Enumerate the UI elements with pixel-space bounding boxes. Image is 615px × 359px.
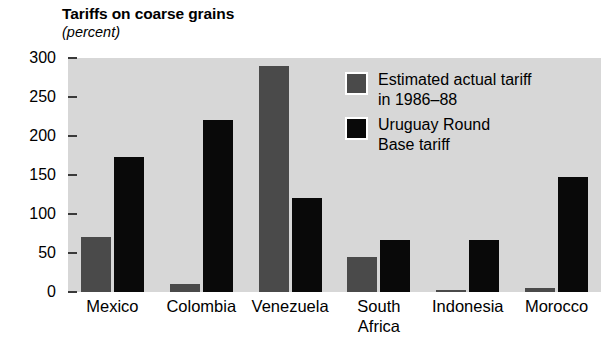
- bar-base: [114, 157, 144, 292]
- legend-label: Estimated actual tariff in 1986–88: [378, 70, 532, 109]
- x-tick-label-line: Venezuela: [246, 296, 335, 316]
- legend-swatch-icon: [345, 72, 368, 95]
- x-tick-label: SouthAfrica: [335, 296, 424, 336]
- y-tick-label: 150: [0, 167, 56, 183]
- bar-actual: [525, 288, 555, 292]
- y-tick-label: 250: [0, 89, 56, 105]
- y-tick-label: 50: [0, 245, 56, 261]
- legend-item: Uruguay Round Base tariff: [345, 115, 595, 154]
- x-tick-label: Morocco: [512, 296, 601, 316]
- chart-header: Tariffs on coarse grains (percent): [62, 4, 602, 41]
- bar-base: [469, 240, 499, 292]
- x-tick-label-line: Colombia: [157, 296, 246, 316]
- y-axis: 300250200150100500: [0, 58, 56, 292]
- bar-group: [246, 58, 335, 292]
- x-tick-label: Venezuela: [246, 296, 335, 316]
- chart-subtitle: (percent): [62, 23, 602, 41]
- bar-actual: [347, 257, 377, 292]
- page-title: Tariffs on coarse grains: [62, 4, 602, 23]
- x-tick-label-line: South: [335, 296, 424, 316]
- legend-swatch-icon: [345, 117, 368, 140]
- bar-actual: [436, 290, 466, 292]
- bar-base: [203, 120, 233, 292]
- x-tick-label: Colombia: [157, 296, 246, 316]
- x-axis: MexicoColombiaVenezuelaSouthAfricaIndone…: [68, 296, 601, 356]
- x-tick-label-line: Mexico: [68, 296, 157, 316]
- x-tick-label-line: Morocco: [512, 296, 601, 316]
- bar-actual: [259, 66, 289, 292]
- legend-item: Estimated actual tariff in 1986–88: [345, 70, 595, 109]
- y-tick-label: 100: [0, 206, 56, 222]
- bar-group: [157, 58, 246, 292]
- bar-base: [292, 198, 322, 292]
- x-tick-label: Mexico: [68, 296, 157, 316]
- bar-actual: [170, 284, 200, 292]
- y-tick-label: 200: [0, 128, 56, 144]
- legend-label: Uruguay Round Base tariff: [378, 115, 490, 154]
- bar-actual: [81, 237, 111, 292]
- y-tick-label: 300: [0, 50, 56, 66]
- x-tick-label: Indonesia: [423, 296, 512, 316]
- x-tick-label-line: Africa: [335, 316, 424, 336]
- bar-chart: Tariffs on coarse grains (percent) 30025…: [0, 0, 615, 359]
- y-tick-label: 0: [0, 284, 56, 300]
- bar-base: [380, 240, 410, 292]
- bar-base: [558, 177, 588, 292]
- x-tick-label-line: Indonesia: [423, 296, 512, 316]
- bar-group: [68, 58, 157, 292]
- chart-legend: Estimated actual tariff in 1986–88Urugua…: [345, 70, 595, 160]
